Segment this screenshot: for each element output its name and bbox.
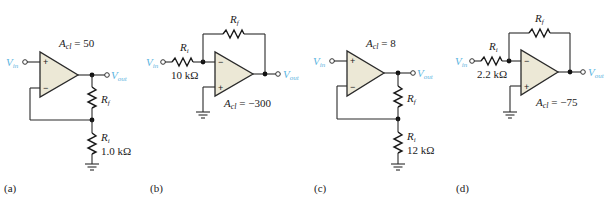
vin-terminal [330,59,335,64]
vout-label: Vout [111,69,128,83]
gain-label: Acl = −300 [223,97,271,111]
gain-label: Acl = −75 [535,96,578,110]
vout-label: Vout [283,68,300,82]
gain-label: Acl = 50 [58,37,95,51]
panel-label-c: (c) [314,182,327,195]
rf-label: Rf [100,93,111,107]
circuit-c: + − Acl = 8 Vin Vout Rf Ri 12 kΩ (c) [313,37,434,195]
rf-label: Rf [229,13,240,27]
panel-label-d: (d) [456,182,469,195]
ri-resistor [172,58,193,66]
minus-input-label: − [218,57,223,67]
vout-label: Vout [588,66,605,80]
circuit-b: − + Vin Vout Ri 10 kΩ Rf Acl = −300 (b) [146,13,300,195]
plus-input-label: + [524,82,529,92]
vout-label: Vout [417,67,434,81]
panel-label-b: (b) [150,182,163,195]
vout-terminal [105,73,110,78]
ground-icon [503,112,517,118]
ground-icon [85,164,99,170]
rf-label: Rf [406,92,417,106]
ri-value: 12 kΩ [407,144,434,156]
op-amp-circuits-figure: + − Acl = 50 Vin Vout Rf Ri 1.0 kΩ (a) [0,0,611,208]
minus-input-label: − [350,82,355,92]
ri-label: Ri [406,130,416,144]
rf-resistor [529,29,550,37]
output-node [263,72,268,77]
rf-label: Rf [534,12,545,26]
ri-resistor [481,57,502,65]
panel-label-a: (a) [4,182,17,195]
ground-icon [196,112,210,118]
vout-terminal [411,71,416,76]
ri-resistor [394,132,402,153]
ri-label: Ri [179,41,189,55]
vin-label: Vin [6,56,19,70]
vin-label: Vin [313,55,326,69]
minus-input-label: − [43,83,48,93]
circuit-d: − + Vin Vout Ri 2.2 kΩ Rf Acl = −75 (d) [455,12,605,195]
rf-resistor [88,87,96,108]
ri-resistor [88,133,96,154]
vin-label: Vin [146,56,159,70]
vin-terminal [161,60,166,65]
output-node [568,70,573,75]
vout-terminal [581,70,586,75]
plus-input-label: + [218,83,223,93]
vout-terminal [276,72,281,77]
rf-resistor [223,30,244,38]
ri-value: 10 kΩ [171,69,198,81]
ri-value: 2.2 kΩ [477,68,507,80]
gain-label: Acl = 8 [365,37,396,51]
vin-terminal [23,60,28,65]
minus-input-label: − [524,56,529,66]
circuit-a: + − Acl = 50 Vin Vout Rf Ri 1.0 kΩ (a) [4,37,131,195]
vin-terminal [470,59,475,64]
ri-value: 1.0 kΩ [101,145,131,157]
vin-label: Vin [455,55,468,69]
plus-input-label: + [43,57,48,67]
plus-input-label: + [350,56,355,66]
ri-label: Ri [488,40,498,54]
ground-icon [391,164,405,170]
ri-label: Ri [100,131,110,145]
rf-resistor [394,86,402,107]
